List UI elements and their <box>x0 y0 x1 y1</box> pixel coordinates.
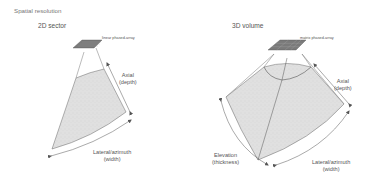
linear-array-transducer-icon <box>73 40 102 48</box>
volume-3d <box>221 40 349 165</box>
axial-label-3d: Axial (depth) <box>334 78 352 91</box>
lateral-label-3d: Lateral/azimuth (width) <box>312 159 350 172</box>
lateral-label-2d: Lateral/azimuth (width) <box>93 149 131 162</box>
elevation-label-3d: Elevation (thickness) <box>212 152 239 165</box>
matrix-array-transducer-icon <box>268 40 306 50</box>
axial-label-2d: Axial (depth) <box>119 72 137 85</box>
sector-2d <box>51 40 131 156</box>
